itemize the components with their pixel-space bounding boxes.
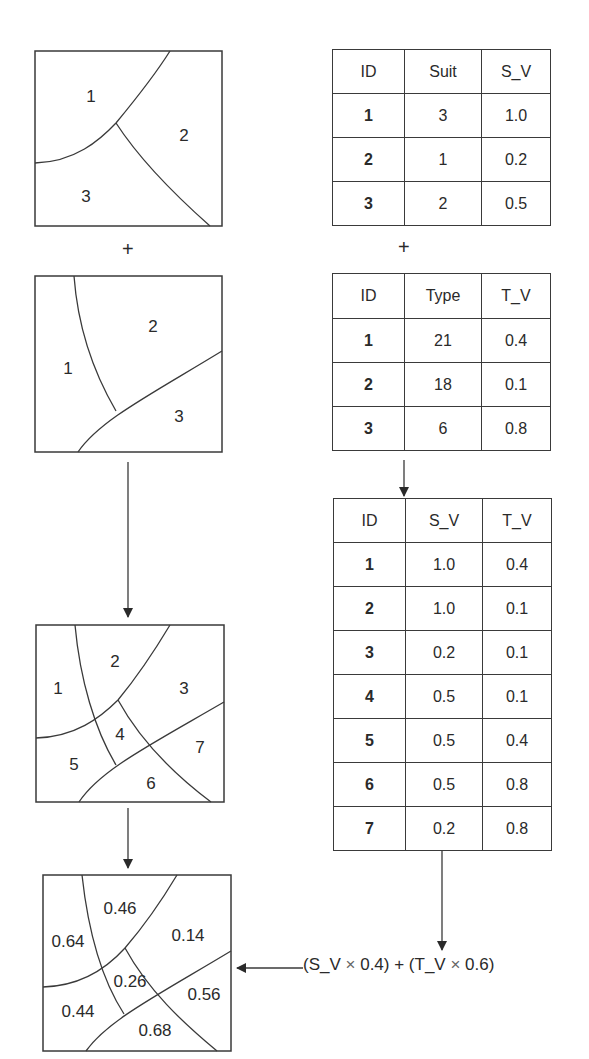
map-value: 0.44 xyxy=(61,1002,94,1021)
map-label: 2 xyxy=(110,652,119,671)
cell: 0.5 xyxy=(406,675,483,719)
weighted-formula: (S_V × 0.4) + (T_V × 0.6) xyxy=(303,955,494,975)
map-label: 1 xyxy=(86,87,95,106)
map-value: 0.46 xyxy=(103,899,136,918)
cell: 0.2 xyxy=(406,631,483,675)
map-label: 6 xyxy=(146,774,155,793)
cell: 21 xyxy=(405,319,482,363)
id-cell: 4 xyxy=(334,675,406,719)
cell: 0.4 xyxy=(482,319,551,363)
map-value: 0.68 xyxy=(138,1021,171,1040)
formula-part: 0.6) xyxy=(460,955,494,974)
map-label: 1 xyxy=(63,359,72,378)
plus-operator: + xyxy=(122,238,134,261)
header-cell: ID xyxy=(334,499,406,543)
map-label: 3 xyxy=(174,407,183,426)
cell: 0.1 xyxy=(483,675,552,719)
map-label: 7 xyxy=(195,738,204,757)
cell: 3 xyxy=(405,94,482,138)
id-cell: 1 xyxy=(333,94,405,138)
cell: 0.4 xyxy=(483,719,552,763)
header-cell: Suit xyxy=(405,50,482,94)
cell: 0.1 xyxy=(482,363,551,407)
map-label: 2 xyxy=(179,126,188,145)
suitability-table: ID Suit S_V 1 3 1.0 2 1 0.2 3 2 0.5 xyxy=(332,49,551,226)
cell: 0.5 xyxy=(406,763,483,807)
overlay-map: 1 2 3 4 5 6 7 xyxy=(36,625,224,802)
map-value: 0.56 xyxy=(187,985,220,1004)
id-cell: 2 xyxy=(333,363,405,407)
combined-table: ID S_V T_V 11.00.4 21.00.1 30.20.1 40.50… xyxy=(333,498,552,851)
cell: 0.1 xyxy=(483,631,552,675)
id-cell: 6 xyxy=(334,763,406,807)
header-cell: S_V xyxy=(482,50,551,94)
map-value: 0.14 xyxy=(171,926,204,945)
type-map: 2 1 3 xyxy=(35,276,222,452)
cell: 0.4 xyxy=(483,543,552,587)
cell: 1.0 xyxy=(482,94,551,138)
cell: 0.5 xyxy=(406,719,483,763)
cell: 6 xyxy=(405,407,482,451)
multiply-icon: × xyxy=(346,955,356,974)
type-table: ID Type T_V 1 21 0.4 2 18 0.1 3 6 0.8 xyxy=(332,273,551,451)
multiply-icon: × xyxy=(450,955,460,974)
id-cell: 2 xyxy=(334,587,406,631)
cell: 0.8 xyxy=(483,763,552,807)
formula-part: (S_V xyxy=(303,955,346,974)
cell: 0.1 xyxy=(483,587,552,631)
id-cell: 3 xyxy=(333,182,405,226)
map-label: 1 xyxy=(53,679,62,698)
formula-part: 0.4) + (T_V xyxy=(355,955,450,974)
map-label: 4 xyxy=(115,725,124,744)
map-value: 0.26 xyxy=(113,972,146,991)
id-cell: 7 xyxy=(334,807,406,851)
cell: 1 xyxy=(405,138,482,182)
cell: 0.5 xyxy=(482,182,551,226)
id-cell: 3 xyxy=(334,631,406,675)
map-label: 5 xyxy=(69,755,78,774)
header-cell: S_V xyxy=(406,499,483,543)
id-cell: 3 xyxy=(333,407,405,451)
map-label: 3 xyxy=(81,187,90,206)
map-label: 3 xyxy=(179,679,188,698)
header-cell: ID xyxy=(333,50,405,94)
cell: 0.2 xyxy=(406,807,483,851)
cell: 18 xyxy=(405,363,482,407)
header-cell: ID xyxy=(333,274,405,319)
cell: 0.2 xyxy=(482,138,551,182)
cell: 1.0 xyxy=(406,587,483,631)
cell: 0.8 xyxy=(482,407,551,451)
id-cell: 2 xyxy=(333,138,405,182)
header-cell: T_V xyxy=(483,499,552,543)
cell: 2 xyxy=(405,182,482,226)
plus-operator: + xyxy=(398,236,410,259)
suitability-map: 1 2 3 xyxy=(35,51,222,226)
cell: 0.8 xyxy=(483,807,552,851)
id-cell: 5 xyxy=(334,719,406,763)
header-cell: Type xyxy=(405,274,482,319)
map-label: 2 xyxy=(148,317,157,336)
map-value: 0.64 xyxy=(51,932,84,951)
id-cell: 1 xyxy=(334,543,406,587)
header-cell: T_V xyxy=(482,274,551,319)
result-map: 0.46 0.64 0.14 0.26 0.44 0.68 0.56 xyxy=(43,875,231,1051)
id-cell: 1 xyxy=(333,319,405,363)
cell: 1.0 xyxy=(406,543,483,587)
